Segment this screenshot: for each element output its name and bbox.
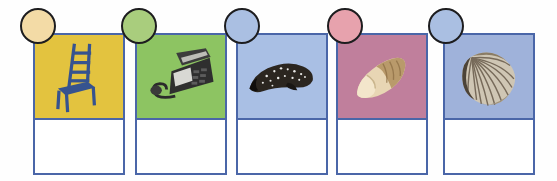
thumb-icon: [338, 35, 426, 118]
bullet-circle-3[interactable]: [224, 8, 260, 44]
picture-area-whale: [238, 35, 326, 120]
answer-box-whale[interactable]: [238, 120, 326, 173]
picture-area-shell: [445, 35, 533, 120]
bullet-circle-2[interactable]: [121, 8, 157, 44]
picture-area-thumb: [338, 35, 426, 120]
picture-card-chair[interactable]: [33, 33, 125, 175]
answer-box-telephone[interactable]: [137, 120, 225, 173]
picture-card-shell[interactable]: [443, 33, 535, 175]
bullet-circle-1[interactable]: [20, 8, 56, 44]
picture-card-telephone[interactable]: [135, 33, 227, 175]
bullet-circle-4[interactable]: [327, 8, 363, 44]
answer-box-thumb[interactable]: [338, 120, 426, 173]
chair-icon: [35, 35, 123, 118]
bullet-circle-5[interactable]: [428, 8, 464, 44]
answer-box-shell[interactable]: [445, 120, 533, 173]
telephone-icon: [137, 35, 225, 118]
answer-box-chair[interactable]: [35, 120, 123, 173]
whale-icon: [238, 35, 326, 118]
picture-card-whale[interactable]: [236, 33, 328, 175]
shell-icon: [445, 35, 533, 118]
picture-area-chair: [35, 35, 123, 120]
picture-card-thumb[interactable]: [336, 33, 428, 175]
worksheet-container: [0, 0, 557, 181]
picture-area-telephone: [137, 35, 225, 120]
